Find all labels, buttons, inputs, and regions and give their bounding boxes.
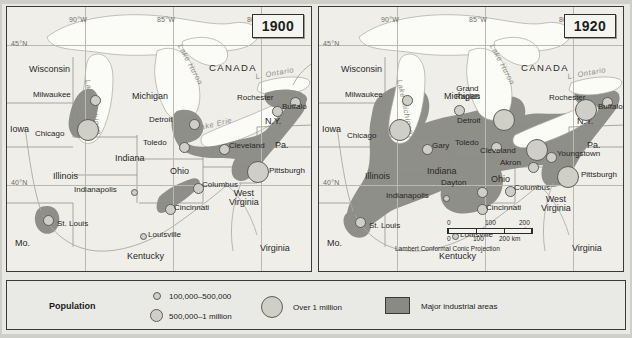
city-marker[interactable] xyxy=(454,105,465,116)
state-label: Mo. xyxy=(15,239,30,248)
legend-symbol-large-circle xyxy=(261,296,283,318)
graticule-40n xyxy=(319,185,623,186)
legend-label: Over 1 million xyxy=(293,303,342,312)
state-label: Mo. xyxy=(327,239,342,248)
city-marker[interactable] xyxy=(77,119,99,141)
city-marker[interactable] xyxy=(355,217,366,228)
state-label: Pa. xyxy=(275,141,289,150)
city-marker[interactable] xyxy=(575,99,597,121)
city-marker[interactable] xyxy=(43,215,54,226)
city-label: Toledo xyxy=(143,139,167,147)
state-label: N.Y. xyxy=(265,117,281,126)
city-marker[interactable] xyxy=(443,195,450,202)
state-label: Iowa xyxy=(322,125,341,134)
scale-km-tick: 100 xyxy=(473,235,484,242)
coord-label: 85°W xyxy=(157,16,175,23)
coord-label: 45°N xyxy=(11,40,27,47)
state-label: Ohio xyxy=(491,175,510,184)
state-label: Indiana xyxy=(115,154,145,163)
coord-label: 40°N xyxy=(11,179,27,186)
state-label: Wisconsin xyxy=(341,65,382,74)
city-label: Detroit xyxy=(457,117,481,125)
legend-symbol-medium-circle xyxy=(150,309,163,322)
coord-label: 90°W xyxy=(381,16,399,23)
scale-mile-tick: 0 xyxy=(447,219,451,226)
coord-label: 90°W xyxy=(69,16,87,23)
city-marker[interactable] xyxy=(131,189,138,196)
map-figure: 90°W 85°W 80°W 45°N 40°N 1900 CANADA Wis… xyxy=(2,4,630,334)
city-label: Pittsburgh xyxy=(581,171,617,179)
city-label: Cleveland xyxy=(229,142,265,150)
scale-mile-tick: 100 xyxy=(485,219,496,226)
city-label: Rochester xyxy=(237,94,273,102)
city-label: Louisville xyxy=(148,231,181,239)
city-label: St. Louis xyxy=(369,222,400,230)
city-label: Chicago xyxy=(35,130,64,138)
city-label: Toledo xyxy=(455,139,479,147)
country-label-canada: CANADA xyxy=(521,63,569,73)
scale-km-labels: 0 100 200 km xyxy=(447,235,539,244)
city-marker[interactable] xyxy=(477,187,488,198)
graticule-40n xyxy=(7,185,311,186)
state-label: Virginia xyxy=(572,244,602,253)
graticule-80w xyxy=(261,7,262,271)
city-marker[interactable] xyxy=(90,95,101,106)
city-label: Detroit xyxy=(149,116,173,124)
city-marker[interactable] xyxy=(526,139,548,161)
legend-label: Major industrial areas xyxy=(421,302,497,311)
year-badge-1900: 1900 xyxy=(252,14,304,38)
city-label: Indianapolis xyxy=(386,192,429,200)
city-label: Cleveland xyxy=(480,147,516,155)
coord-label: 40°N xyxy=(323,179,339,186)
city-label: Milwaukee xyxy=(345,91,383,99)
scale-bar xyxy=(447,228,533,234)
map-panel-1920[interactable]: 90°W 85°W 80°W 45°N 40°N 1920 CANADA Wis… xyxy=(318,6,624,272)
city-marker[interactable] xyxy=(402,95,413,106)
figure-page: 90°W 85°W 80°W 45°N 40°N 1900 CANADA Wis… xyxy=(0,0,632,338)
city-label: Milwaukee xyxy=(33,91,71,99)
city-label: Buffalo xyxy=(598,103,623,111)
year-badge-1920: 1920 xyxy=(564,14,616,38)
state-label: Kentucky xyxy=(439,252,476,261)
state-label: West Virginia xyxy=(229,189,259,208)
graticule-45n xyxy=(7,45,311,46)
state-label: Illinois xyxy=(53,172,78,181)
city-label: Gary xyxy=(432,142,449,150)
legend-label: 100,000–500,000 xyxy=(169,292,231,301)
city-label: Indianapolis xyxy=(74,186,117,194)
city-marker[interactable] xyxy=(493,109,515,131)
city-label: Akron xyxy=(500,159,521,167)
maps-row: 90°W 85°W 80°W 45°N 40°N 1900 CANADA Wis… xyxy=(6,6,626,274)
graticule-80w xyxy=(573,7,574,271)
city-label: Columbus xyxy=(202,181,238,189)
map-legend: Population 100,000–500,000 500,000–1 mil… xyxy=(6,280,626,330)
city-label: Chicago xyxy=(347,132,376,140)
scale-bar-group: 0 100 200 mi. 0 100 200 km Lambert Confo… xyxy=(447,219,539,252)
city-label: Dayton xyxy=(441,179,466,187)
city-label: Youngstown xyxy=(557,150,600,158)
state-label: Ohio xyxy=(170,167,189,176)
city-marker[interactable] xyxy=(140,233,147,240)
state-label: Virginia xyxy=(260,244,290,253)
city-marker[interactable] xyxy=(557,166,579,188)
projection-label: Lambert Conformal Conic Projection xyxy=(395,245,539,252)
city-label: St. Louis xyxy=(57,220,88,228)
map-panel-1900[interactable]: 90°W 85°W 80°W 45°N 40°N 1900 CANADA Wis… xyxy=(6,6,312,272)
state-label: Wisconsin xyxy=(29,65,70,74)
coord-label: 85°W xyxy=(469,16,487,23)
state-label: Michigan xyxy=(132,92,168,101)
legend-symbol-small-circle xyxy=(153,292,161,300)
city-label: Cincinnati xyxy=(174,204,209,212)
state-label: West Virginia xyxy=(541,195,571,214)
city-marker[interactable] xyxy=(528,162,539,173)
state-label: Indiana xyxy=(427,167,457,176)
city-label: Cincinnati xyxy=(486,204,521,212)
city-marker[interactable] xyxy=(189,119,200,130)
city-marker[interactable] xyxy=(389,119,411,141)
scale-km-tick: 0 xyxy=(447,235,451,242)
city-label: Pittsburgh xyxy=(269,167,305,175)
city-marker[interactable] xyxy=(546,152,557,163)
city-marker[interactable] xyxy=(179,142,190,153)
scale-km-tick: 200 km xyxy=(499,235,520,242)
city-marker[interactable] xyxy=(247,161,269,183)
